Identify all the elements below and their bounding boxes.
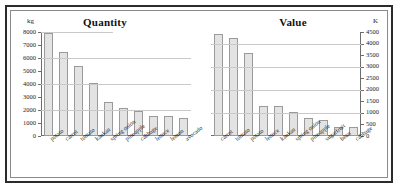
bar	[74, 66, 82, 136]
value-tick-label: 1500	[366, 98, 379, 105]
quantity-gridline	[41, 84, 191, 85]
value-tick	[361, 101, 364, 102]
value-tick	[361, 113, 364, 114]
quantity-tick-label: 6000	[23, 55, 36, 62]
quantity-plot-area: 010002000300040005000600070008000	[41, 32, 191, 136]
quantity-tick-label: 8000	[23, 29, 36, 36]
bar-slot	[346, 32, 361, 136]
quantity-tick-label: 3000	[23, 94, 36, 101]
value-tick	[361, 32, 364, 33]
quantity-gridline	[41, 32, 113, 33]
value-chart: K Value 05001000150020002500300035004000…	[199, 11, 387, 177]
value-tick	[361, 124, 364, 125]
value-category-labels: carrottomatopotatolettucekaukauspring on…	[211, 137, 361, 177]
bar-slot	[286, 32, 301, 136]
bar	[244, 53, 252, 136]
value-tick-label: 4000	[366, 40, 379, 47]
value-tick	[361, 55, 364, 56]
value-tick	[361, 67, 364, 68]
value-plot-area: 050010001500200025003000350040004500	[211, 32, 361, 136]
quantity-category-labels: potatocarrottomatokaukauspring onionpine…	[41, 137, 191, 177]
bar-slot	[331, 32, 346, 136]
quantity-chart-title: Quantity	[11, 16, 199, 28]
quantity-tick	[38, 97, 41, 98]
value-gridline	[211, 90, 361, 91]
bar	[214, 34, 222, 136]
bar-slot	[226, 32, 241, 136]
value-tick	[361, 44, 364, 45]
value-tick	[361, 78, 364, 79]
bar-slot	[271, 32, 286, 136]
charts-container: kg Quantity 0100020003000400050006000700…	[11, 11, 387, 177]
value-tick-label: 3000	[366, 63, 379, 70]
bar-slot	[256, 32, 271, 136]
quantity-tick-label: 7000	[23, 42, 36, 49]
value-gridline	[211, 44, 361, 45]
quantity-tick	[38, 71, 41, 72]
quantity-chart: kg Quantity 0100020003000400050006000700…	[11, 11, 199, 177]
bar-slot	[211, 32, 226, 136]
value-tick-label: 4500	[366, 29, 379, 36]
bar	[59, 52, 67, 137]
value-chart-title: Value	[199, 16, 387, 28]
value-tick-label: 2000	[366, 86, 379, 93]
value-bars	[211, 32, 361, 136]
value-tick-label: 1000	[366, 109, 379, 116]
bar-slot	[241, 32, 256, 136]
value-gridline	[211, 113, 361, 114]
quantity-tick	[38, 123, 41, 124]
value-tick-label: 2500	[366, 75, 379, 82]
value-gridline	[211, 67, 361, 68]
quantity-tick	[38, 45, 41, 46]
quantity-tick-label: 0	[33, 133, 36, 140]
image-frame: kg Quantity 0100020003000400050006000700…	[5, 5, 393, 183]
quantity-tick-label: 5000	[23, 68, 36, 75]
quantity-gridline	[41, 110, 191, 111]
bar	[229, 38, 237, 136]
chart-panel: kg Quantity 0100020003000400050006000700…	[10, 10, 388, 178]
value-tick	[361, 90, 364, 91]
quantity-gridline	[41, 58, 191, 59]
quantity-tick-label: 1000	[23, 120, 36, 127]
quantity-tick-label: 4000	[23, 81, 36, 88]
quantity-tick-label: 2000	[23, 107, 36, 114]
value-tick-label: 3500	[366, 52, 379, 59]
